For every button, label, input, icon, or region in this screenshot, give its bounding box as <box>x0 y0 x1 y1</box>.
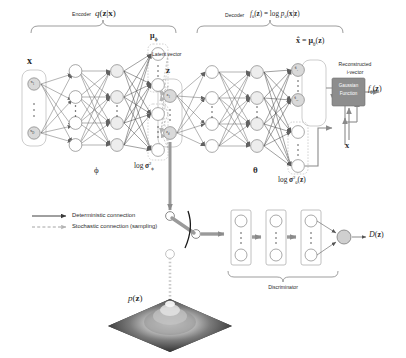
gaussian-box-line2: Function <box>340 92 358 97</box>
prior-label: p(z) <box>128 294 143 303</box>
decoder-bracket-label: Decoder <box>225 13 244 18</box>
latent-node-label-1: z1 <box>167 93 171 98</box>
latent-vector-symbol: z <box>166 66 170 75</box>
decoder-formula: fθ(z) = log pθ(x|z) <box>250 11 300 19</box>
discriminator-bracket-label: Discriminator <box>268 285 298 290</box>
prior-gaussian-surface-plot <box>108 299 232 352</box>
decoder-edges-h1-h2 <box>219 72 250 146</box>
decoder-hidden-layer-2-nodes <box>251 66 264 153</box>
encoder-bracket-label: Encoder <box>72 12 91 17</box>
decoder-logvar-label: log σ2θ(z) <box>278 176 306 184</box>
legend-label-stochastic: Stochastic connection (sampling) <box>72 223 157 229</box>
discriminator-output-label: D(z) <box>369 231 384 239</box>
encoder-hidden-layer-2-nodes <box>111 65 124 152</box>
input-node-label-d: xD <box>30 129 34 134</box>
decoder-params-label: θ <box>253 166 258 175</box>
output-node-label-d: x̂D <box>294 96 298 101</box>
output-node-label-1: x̂1 <box>295 66 299 71</box>
diagram-vector-layer <box>0 0 406 358</box>
latent-node-label-d: zd <box>166 130 170 135</box>
encoder-logvar-label: log σ2ϕ <box>134 162 154 170</box>
encoder-params-label: ϕ <box>94 166 99 175</box>
decoder-hidden-layer-1-nodes <box>206 66 219 153</box>
decoder-edges-h2-out <box>264 70 291 166</box>
avae-architecture-figure: Encoder q(z|x) Decoder fθ(z) = log pθ(x|… <box>0 0 406 358</box>
legend-label-deterministic: Deterministic connection <box>72 212 135 218</box>
discriminator-output-node <box>337 230 351 244</box>
discriminator-bracket <box>228 271 338 282</box>
encoder-edges-h1-h2 <box>79 71 110 145</box>
decoder-bracket <box>197 20 343 33</box>
decoder-output-label: x̂ = μθ(z) <box>296 37 324 45</box>
gaussian-input-x-label: x <box>345 141 349 150</box>
encoder-mu-label: μϕ <box>150 32 158 40</box>
latent-vector-caption: Latent vector <box>152 52 181 57</box>
decoder-output-logvar-nodes <box>292 126 305 173</box>
gaussian-output-label: fθ(z) <box>368 85 382 93</box>
latent-to-switch-path <box>169 142 172 210</box>
gaussian-box-line1: Gaussian <box>339 84 358 89</box>
reconstructed-caption-line1: Reconstructed <box>339 62 372 67</box>
input-node-label-1: x1 <box>31 80 35 85</box>
encoder-edges-h2-out <box>124 54 151 150</box>
reconstructed-caption-line2: i-vector <box>347 70 364 75</box>
encoder-hidden-layer-1-nodes <box>69 65 82 152</box>
encoder-formula: q(z|x) <box>95 9 116 18</box>
encoder-input-label: x <box>27 56 32 67</box>
discriminator-output-edges <box>317 221 336 255</box>
